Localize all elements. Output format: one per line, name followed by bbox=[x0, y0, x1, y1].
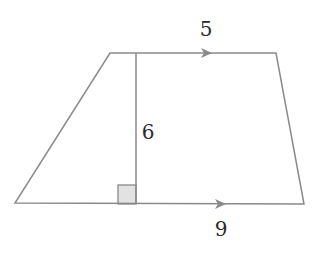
trapezoid-diagram: 5 6 9 bbox=[0, 0, 324, 263]
trapezoid-outline bbox=[15, 53, 304, 204]
top-base-label: 5 bbox=[200, 19, 213, 39]
bottom-base-label: 9 bbox=[215, 219, 228, 239]
trapezoid-figure bbox=[0, 0, 324, 263]
height-label: 6 bbox=[142, 122, 155, 142]
right-angle-marker bbox=[118, 185, 136, 204]
